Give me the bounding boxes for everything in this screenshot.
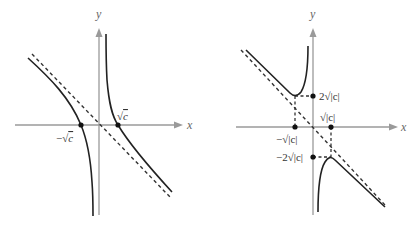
right-branch-right xyxy=(318,158,385,212)
right-y-axis-arrow-icon xyxy=(310,28,317,37)
left-point-neg-root xyxy=(78,122,83,127)
left-branch-right xyxy=(106,34,172,192)
left-y-axis-arrow-icon xyxy=(96,28,103,37)
right-label-top: 2√|c| xyxy=(319,90,340,102)
right-point-top xyxy=(310,93,315,98)
diagram-canvas: y x −√c √c y x xyxy=(0,0,417,225)
right-panel: y x 2√|c| √|c| −√|c| −2√|c| xyxy=(236,7,407,215)
right-label-bottom: −2√|c| xyxy=(276,151,303,163)
right-point-pos-root xyxy=(328,124,333,129)
right-label-pos-root: √|c| xyxy=(320,111,335,123)
right-point-bottom xyxy=(310,154,315,159)
left-point-pos-root xyxy=(115,122,120,127)
left-label-neg-root: −√c xyxy=(56,132,73,144)
right-x-axis-arrow-icon xyxy=(389,124,398,131)
right-x-axis-label: x xyxy=(400,120,407,134)
right-point-neg-root xyxy=(292,124,297,129)
left-panel: y x −√c √c xyxy=(15,7,193,216)
left-y-axis-label: y xyxy=(95,7,102,21)
right-y-axis-label: y xyxy=(309,7,316,21)
right-label-neg-root: −√|c| xyxy=(276,133,298,145)
left-label-pos-root: √c xyxy=(117,110,128,122)
left-x-axis-label: x xyxy=(186,118,193,132)
left-x-axis-arrow-icon xyxy=(174,122,183,129)
